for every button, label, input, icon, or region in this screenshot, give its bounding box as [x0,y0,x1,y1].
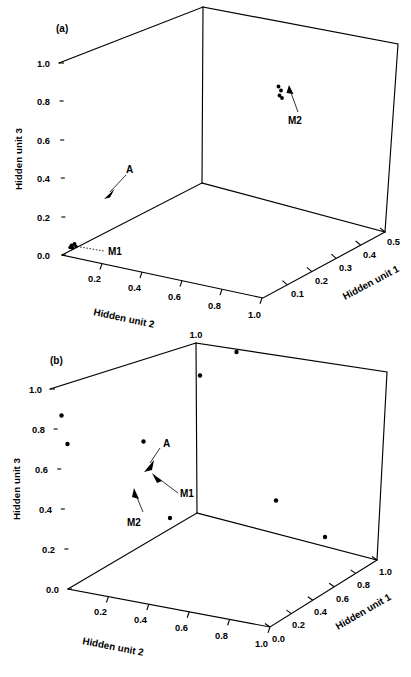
panel-a-ytick-3: 0.4 [363,250,377,260]
panel-b-xtick-1: 0.4 [134,615,148,625]
panel-b-m1-leader [152,473,178,493]
panel-b-data-points [59,350,327,539]
panel-b-a-arrow [144,448,160,472]
data-point [59,413,63,417]
panel-a-x-axis-title: Hidden unit 2 [93,306,157,330]
panel-b-z-ticks [50,389,72,589]
floor-front-edges [62,232,385,298]
panel-a-a-arrow [104,175,126,199]
panel-a: 1.0 0.8 0.6 0.4 0.2 0.0 0.2 0.4 0.6 0.8 … [0,0,411,340]
panel-b-m2-arrow [132,488,143,512]
panel-a-annotation-m2: M2 [288,115,302,126]
panel-a-ztick-3: 0.4 [37,174,51,184]
panel-a-m1-cluster [68,242,77,250]
panel-b-x-ticks [106,597,270,633]
panel-b-top-corner-tick: 1.0 [190,330,203,340]
panel-a-ytick-2: 0.3 [339,263,352,273]
panel-b: 1.0 1.0 0.8 0.6 0.4 0.2 0.0 [0,330,411,677]
panel-b-ztick-1: 0.8 [32,425,45,435]
panel-a-z-ticks [59,63,66,255]
panel-a-xtick-3: 0.8 [208,301,221,311]
panel-a-m2-cluster [277,85,284,100]
panel-a-ztick-1: 0.8 [37,97,50,107]
panel-a-ztick-5: 0.0 [37,251,50,261]
panel-b-ztick-4: 0.2 [42,545,55,555]
panel-b-xtick-4: 1.0 [255,639,268,649]
panel-a-plot: 1.0 0.8 0.6 0.4 0.2 0.0 0.2 0.4 0.6 0.8 … [0,0,411,340]
panel-a-m2-arrow [287,85,299,112]
panel-b-label: (b) [50,355,63,366]
panel-b-ztick-0: 1.0 [29,385,42,395]
panel-b-annotation-a: A [163,438,170,449]
data-point [234,350,238,354]
panel-b-z-axis-title: Hidden unit 3 [11,457,22,520]
panel-a-annotation-m1: M1 [108,246,122,257]
data-point [198,373,202,377]
back-left-wall [59,7,203,255]
data-point [168,516,172,520]
panel-a-z-axis-title: Hidden unit 3 [13,127,24,190]
panel-a-ytick-1: 0.2 [315,276,328,286]
panel-a-xtick-1: 0.4 [128,283,142,293]
panel-b-annotation-m1: M1 [180,488,194,499]
data-point [274,498,278,502]
panel-b-ytick-1: 0.2 [292,620,305,630]
panel-a-ytick-0: 0.1 [291,289,304,299]
panel-a-xtick-0: 0.2 [88,274,101,284]
panel-b-ytick-2: 0.4 [314,607,328,617]
panel-a-ytick-4: 0.5 [387,237,400,247]
panel-b-ytick-4: 0.8 [357,580,370,590]
panel-b-ztick-3: 0.4 [39,505,53,515]
panel-b-ztick-2: 0.6 [35,465,48,475]
back-left-wall-b [50,343,197,589]
back-right-wall-b [196,343,387,560]
floor-front-edges-b [68,560,377,627]
panel-a-ztick-0: 1.0 [37,59,50,69]
panel-a-x-ticks [100,264,262,304]
panel-b-plot: 1.0 1.0 0.8 0.6 0.4 0.2 0.0 [0,330,411,677]
panel-b-annotation-m2: M2 [127,517,141,528]
panel-a-label: (a) [56,23,68,34]
panel-b-xtick-3: 0.8 [215,631,228,641]
data-point [323,535,327,539]
panel-a-annotation-a: A [126,164,133,175]
panel-b-ytick-3: 0.6 [336,594,349,604]
panel-b-ytick-0: 0.0 [272,634,285,644]
figure-root: 1.0 0.8 0.6 0.4 0.2 0.0 0.2 0.4 0.6 0.8 … [0,0,411,677]
panel-b-ytick-5: 1.0 [379,567,392,577]
panel-b-xtick-0: 0.2 [94,607,107,617]
panel-a-xtick-4: 1.0 [248,310,261,320]
data-point [141,439,145,443]
panel-b-ztick-5: 0.0 [46,585,59,595]
panel-a-xtick-2: 0.6 [168,292,181,302]
panel-b-x-axis-title: Hidden unit 2 [82,635,146,658]
data-point [65,442,69,446]
panel-a-ztick-4: 0.2 [37,213,50,223]
panel-a-m1-leader [80,247,104,251]
panel-a-ztick-2: 0.6 [37,136,50,146]
panel-b-xtick-2: 0.6 [175,623,188,633]
